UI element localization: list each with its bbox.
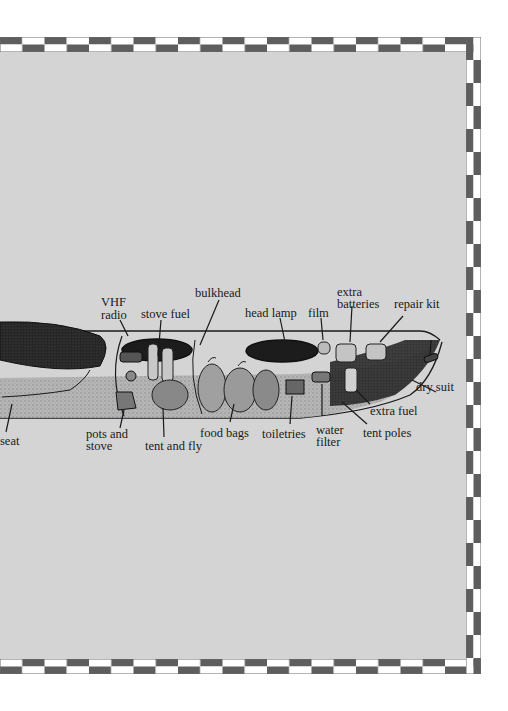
rear-hatch xyxy=(246,340,318,362)
label-extra-batteries-line2: batteries xyxy=(337,298,379,311)
label-repair-kit: repair kit xyxy=(394,298,439,311)
cockpit-coaming xyxy=(0,322,106,369)
label-head-lamp: head lamp xyxy=(245,307,297,320)
label-film: film xyxy=(308,307,329,320)
label-dry-suit: dry suit xyxy=(416,381,454,394)
label-stove-fuel: stove fuel xyxy=(141,308,190,321)
label-vhf-radio-line2: radio xyxy=(101,309,127,322)
label-extra-fuel: extra fuel xyxy=(370,405,418,418)
label-bulkhead: bulkhead xyxy=(195,287,241,300)
label-pots-and-stove-line2: stove xyxy=(86,440,112,453)
label-tent-and-fly: tent and fly xyxy=(145,440,202,453)
diagram-page: seat VHF radio stove fuel bulkhead head … xyxy=(0,0,508,711)
kayak-illustration xyxy=(0,0,508,711)
label-tent-poles: tent poles xyxy=(363,427,411,440)
label-toiletries: toiletries xyxy=(262,428,306,441)
label-seat: seat xyxy=(0,435,19,448)
label-water-filter-line2: filter xyxy=(316,436,340,449)
label-food-bags: food bags xyxy=(200,427,249,440)
